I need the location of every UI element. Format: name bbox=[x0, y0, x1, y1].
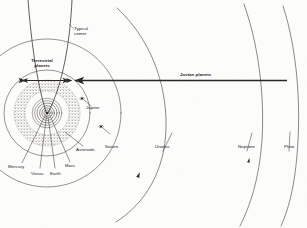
label-neptune: Neptune bbox=[238, 144, 255, 149]
label-terrestrial-planets: Terrestrialplanets bbox=[22, 58, 62, 68]
label-mars: Mars bbox=[65, 163, 75, 168]
saturn-glyph bbox=[99, 125, 104, 127]
arrowhead-saturn-orbit bbox=[247, 158, 251, 163]
jupiter-glyph bbox=[80, 97, 84, 99]
label-venus: Venus bbox=[31, 171, 43, 176]
label-asteroids: Asteroids bbox=[76, 147, 95, 152]
leader-saturn bbox=[103, 128, 110, 134]
label-pluto: Pluto bbox=[284, 144, 294, 149]
motion-arrowheads bbox=[136, 158, 251, 178]
orbit-neptune bbox=[240, 4, 263, 226]
orbit-pluto bbox=[281, 6, 299, 226]
label-jupiter: Jupiter bbox=[86, 105, 100, 110]
orbit-uranus bbox=[116, 8, 166, 222]
label-jovian-planets: Jovian planets bbox=[180, 72, 211, 77]
orbit-lines-layer bbox=[0, 0, 307, 228]
planet-glyphs bbox=[80, 97, 104, 127]
solar-system-diagram: Terrestrialplanets Jovian planets Typica… bbox=[0, 0, 307, 228]
label-typical-comet: Typicalcomet bbox=[74, 26, 88, 36]
label-earth: Earth bbox=[50, 171, 61, 176]
label-mercury: Mercury bbox=[8, 164, 24, 169]
leader-asteroids bbox=[65, 132, 83, 146]
label-uranus: Uranus bbox=[155, 144, 169, 149]
label-saturn: Saturn bbox=[105, 144, 118, 149]
arrowhead-uranus-orbit bbox=[136, 172, 141, 178]
